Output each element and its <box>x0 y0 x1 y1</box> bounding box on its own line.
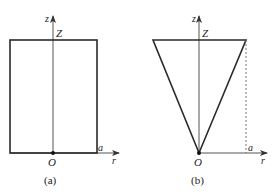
radius-label-b: a <box>248 142 253 153</box>
r-axis-label-a: r <box>112 155 116 166</box>
z-axis-label-b: z <box>191 13 196 24</box>
caption-b: (b) <box>191 174 204 187</box>
origin-label-a: O <box>48 156 56 168</box>
origin-label-b: O <box>194 156 202 168</box>
caption-a: (a) <box>44 174 57 187</box>
z-axis-label-a: z <box>44 13 49 24</box>
height-label-a: Z <box>56 27 63 39</box>
diagram-canvas: z Z O a r (a) z Z O a r (b) <box>0 0 276 196</box>
radius-label-a: a <box>98 142 103 153</box>
origin-dot-b <box>197 151 201 155</box>
panel-a <box>10 16 119 155</box>
panel-b <box>153 16 267 155</box>
height-label-b: Z <box>202 27 209 39</box>
origin-dot-a <box>51 151 55 155</box>
r-axis-label-b: r <box>261 155 265 166</box>
